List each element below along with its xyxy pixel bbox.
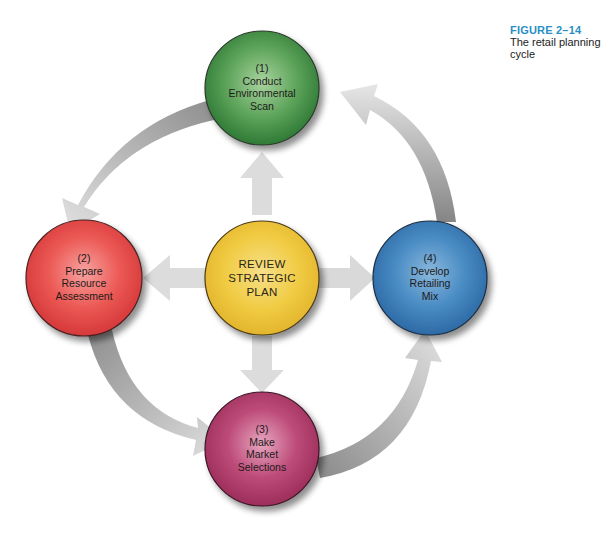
figure-title-line1: The retail planning [510,36,605,48]
label-line: PLAN [207,285,317,299]
label-line: Retailing [375,277,485,290]
label-line: Resource [29,277,139,290]
label-line: Market [207,448,317,461]
label-line: Make [207,436,317,449]
node-step2-label: (2) Prepare Resource Assessment [29,252,139,302]
label-line: Environmental [207,87,317,100]
arrow-step3-to-step4 [316,330,442,478]
label-line: Selections [207,461,317,474]
figure-caption: FIGURE 2–14 The retail planning cycle [510,24,605,60]
label-line: Scan [207,100,317,113]
arrow-center-to-step3 [240,336,284,393]
figure-title-line2: cycle [510,48,605,60]
label-line: Assessment [29,290,139,303]
step-number: (4) [375,252,485,265]
label-line: Prepare [29,265,139,278]
arrow-step2-to-step3 [88,330,226,456]
node-step3-label: (3) Make Market Selections [207,423,317,473]
label-line: Conduct [207,75,317,88]
step-number: (3) [207,423,317,436]
label-line: Mix [375,290,485,303]
arrow-center-to-step4 [318,255,375,301]
node-step1-label: (1) Conduct Environmental Scan [207,62,317,112]
arrow-center-to-step2 [143,255,205,301]
arrow-step4-to-step1 [340,84,456,222]
node-step4-label: (4) Develop Retailing Mix [375,252,485,302]
figure-number: FIGURE 2–14 [510,24,605,36]
step-number: (1) [207,62,317,75]
label-line: Develop [375,265,485,278]
label-line: REVIEW [207,257,317,271]
arrow-center-to-step1 [240,152,284,215]
step-number: (2) [29,252,139,265]
node-center-label: REVIEW STRATEGIC PLAN [207,257,317,299]
label-line: STRATEGIC [207,271,317,285]
arrow-step1-to-step2 [62,100,214,232]
